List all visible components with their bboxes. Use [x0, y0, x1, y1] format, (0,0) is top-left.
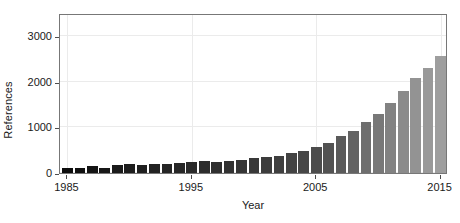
chart-figure: References 0100020003000 Year 1985199520…: [0, 0, 460, 223]
y-tick-mark: [55, 83, 59, 84]
bar: [124, 164, 135, 173]
bar: [286, 153, 297, 173]
bar: [323, 143, 334, 173]
bar: [298, 151, 309, 173]
bar: [211, 162, 222, 173]
bar: [162, 164, 173, 173]
x-tick-mark: [440, 175, 441, 179]
plot-panel: [59, 14, 447, 174]
bar: [261, 157, 272, 173]
bar: [174, 163, 185, 173]
bar: [87, 166, 98, 173]
bar: [274, 156, 285, 173]
y-tick-label: 0: [6, 168, 52, 179]
x-tick-mark: [191, 175, 192, 179]
x-axis-title: Year: [59, 199, 447, 211]
y-tick-mark: [55, 37, 59, 38]
bar: [199, 161, 210, 173]
x-tick-label: 1995: [161, 181, 221, 193]
bar: [112, 165, 123, 173]
bar: [249, 158, 260, 173]
bar: [348, 131, 359, 174]
x-tick-mark: [315, 175, 316, 179]
bar: [435, 56, 446, 173]
x-tick-label: 2005: [285, 181, 345, 193]
bar: [75, 168, 86, 173]
bar: [137, 165, 148, 173]
bar: [149, 164, 160, 173]
bar: [336, 136, 347, 173]
y-tick-mark: [55, 128, 59, 129]
y-tick-label: 3000: [6, 31, 52, 42]
y-tick-label: 1000: [6, 122, 52, 133]
y-tick-mark: [55, 174, 59, 175]
bar: [311, 147, 322, 173]
bar: [410, 78, 421, 173]
bar: [423, 68, 434, 173]
x-tick-mark: [66, 175, 67, 179]
bar: [236, 160, 247, 173]
x-tick-label: 1985: [36, 181, 96, 193]
bar: [224, 161, 235, 173]
bar: [186, 162, 197, 173]
bar: [62, 168, 73, 173]
bar: [373, 114, 384, 173]
gridline-vertical: [192, 15, 193, 173]
gridline-horizontal: [60, 81, 446, 82]
bar: [398, 91, 409, 173]
x-tick-label: 2015: [410, 181, 460, 193]
y-tick-label: 2000: [6, 77, 52, 88]
gridline-vertical: [67, 15, 68, 173]
bar: [385, 103, 396, 173]
gridline-horizontal: [60, 35, 446, 36]
bar: [361, 122, 372, 173]
bar: [99, 168, 110, 173]
